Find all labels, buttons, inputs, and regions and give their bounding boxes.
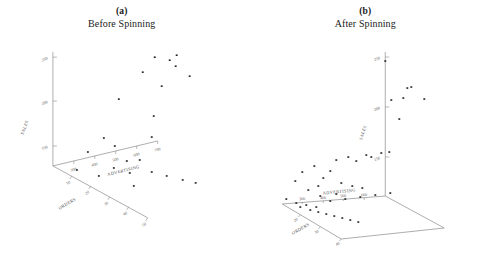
data-point bbox=[315, 206, 317, 208]
data-point bbox=[313, 165, 315, 167]
data-point bbox=[103, 137, 105, 138]
data-point bbox=[114, 145, 116, 146]
panel-a-ztick-700: 700 bbox=[154, 146, 161, 152]
panel-b-vertical-ticks: 250 200 150 SALES bbox=[358, 55, 389, 162]
data-point bbox=[402, 97, 404, 99]
data-point bbox=[161, 85, 163, 86]
data-point bbox=[329, 200, 331, 202]
data-point bbox=[305, 204, 307, 206]
panel-b-floor-plane bbox=[282, 196, 444, 239]
data-point bbox=[87, 151, 89, 152]
data-point bbox=[374, 194, 376, 196]
panel-a-xtick-50: 50 bbox=[141, 221, 147, 227]
panel-a-right-axis-label: ADVERTISING bbox=[107, 164, 141, 177]
data-point bbox=[295, 202, 297, 204]
panel-a-vertical-ticks: 250 200 150 SALES bbox=[20, 55, 57, 151]
data-point bbox=[410, 86, 412, 88]
panel-b-ytick-250: 250 bbox=[373, 55, 380, 62]
data-point bbox=[333, 215, 335, 217]
panel-a-left-ticks: 10 20 30 40 50 ORDERS bbox=[57, 176, 147, 228]
data-point bbox=[365, 154, 367, 156]
panel-a-xtick-20: 20 bbox=[84, 189, 90, 195]
panel-b-ztick-600: 600 bbox=[360, 192, 367, 198]
panel-a-ytick-200: 200 bbox=[41, 99, 49, 106]
data-point bbox=[370, 156, 372, 158]
panel-b-xtick-40: 40 bbox=[334, 241, 340, 247]
data-point bbox=[355, 160, 357, 162]
data-point bbox=[340, 182, 342, 184]
data-point bbox=[142, 71, 144, 72]
panel-a-xtick-10: 10 bbox=[65, 179, 71, 185]
panel-b-ztick-300: 300 bbox=[298, 196, 305, 202]
data-point bbox=[384, 60, 386, 62]
data-point bbox=[195, 182, 197, 183]
data-point bbox=[175, 65, 177, 66]
data-point bbox=[389, 192, 391, 194]
data-point bbox=[151, 171, 153, 172]
data-point bbox=[154, 56, 156, 57]
data-point bbox=[319, 195, 321, 197]
data-point bbox=[347, 156, 349, 158]
data-point bbox=[349, 219, 351, 221]
panel-a-plot: 250 200 150 SALES 10 20 30 40 50 ORDERS bbox=[0, 0, 244, 264]
panel-a-ztick-400: 400 bbox=[91, 161, 98, 167]
panel-a-xtick-30: 30 bbox=[103, 200, 109, 206]
panel-a-vertical-axis-label: SALES bbox=[20, 119, 30, 135]
data-point bbox=[176, 54, 178, 55]
data-point bbox=[388, 151, 390, 153]
data-point bbox=[182, 179, 184, 180]
data-point bbox=[153, 115, 155, 116]
data-point bbox=[335, 159, 337, 161]
data-point bbox=[344, 198, 346, 200]
data-point bbox=[341, 217, 343, 219]
data-point bbox=[380, 152, 382, 154]
data-point bbox=[317, 211, 319, 213]
panel-b-vertical-axis-label: SALES bbox=[358, 124, 368, 140]
panel-b-xtick-20: 20 bbox=[292, 217, 298, 223]
data-point bbox=[357, 221, 359, 223]
data-point bbox=[359, 196, 361, 198]
panel-b-plot: 250 200 150 SALES 600 500 400 300 ADVERT… bbox=[244, 0, 487, 264]
panel-a-ztick-600: 600 bbox=[133, 151, 140, 157]
panel-a-ztick-500: 500 bbox=[112, 156, 119, 162]
panel-a-ytick-150: 150 bbox=[41, 144, 49, 151]
data-point bbox=[76, 169, 78, 170]
data-point bbox=[129, 172, 131, 173]
data-point bbox=[139, 159, 141, 160]
data-point bbox=[118, 98, 120, 99]
data-point bbox=[322, 177, 324, 179]
data-point bbox=[423, 98, 425, 100]
data-point bbox=[309, 209, 311, 211]
data-point bbox=[307, 189, 309, 191]
panel-a-left-axis bbox=[53, 166, 148, 218]
data-point bbox=[301, 171, 303, 173]
panel-b-left-axis-label: ORDERS bbox=[290, 222, 310, 236]
data-point bbox=[151, 136, 153, 137]
panel-a-xtick-40: 40 bbox=[122, 210, 128, 216]
data-point bbox=[390, 99, 392, 101]
data-point bbox=[126, 160, 128, 161]
data-point bbox=[294, 180, 296, 182]
panel-a-left-axis-label: ORDERS bbox=[57, 196, 76, 210]
data-point bbox=[189, 75, 191, 76]
data-point bbox=[329, 170, 331, 172]
panel-b-ytick-200: 200 bbox=[373, 105, 380, 112]
data-point bbox=[98, 175, 100, 176]
panel-b-ytick-150: 150 bbox=[373, 155, 380, 162]
data-point bbox=[317, 185, 319, 187]
panel-a-right-axis bbox=[53, 141, 158, 166]
data-point bbox=[335, 193, 337, 195]
data-point bbox=[398, 118, 400, 120]
data-point bbox=[406, 87, 408, 89]
data-point bbox=[325, 213, 327, 215]
data-point bbox=[113, 167, 115, 168]
data-point bbox=[351, 185, 353, 187]
panel-b-scatter-points bbox=[294, 60, 425, 191]
panel-a-ytick-250: 250 bbox=[41, 55, 49, 62]
data-point bbox=[299, 206, 301, 208]
data-point bbox=[133, 185, 135, 186]
data-point bbox=[285, 198, 287, 200]
data-point bbox=[166, 175, 168, 176]
panel-b-left-ticks: 20 30 40 ORDERS bbox=[290, 215, 340, 247]
data-point bbox=[169, 59, 171, 60]
